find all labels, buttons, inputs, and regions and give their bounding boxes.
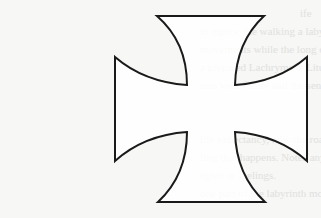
page: ife xt topics: the walking a labyrinth i… [0, 0, 321, 218]
cross-pattee-icon [0, 0, 321, 218]
